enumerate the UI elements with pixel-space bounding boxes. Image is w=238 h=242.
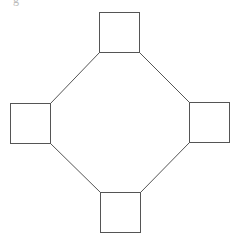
node-bottom: [101, 193, 141, 233]
edge-top-right: [140, 53, 190, 103]
node-left: [11, 104, 51, 144]
edges: [51, 53, 190, 193]
edge-left-bottom: [51, 144, 101, 193]
nodes: [11, 13, 230, 233]
edge-right-bottom: [141, 143, 190, 193]
edge-top-left: [51, 53, 100, 104]
ring-diagram: [0, 0, 238, 242]
node-right: [190, 103, 230, 143]
node-top: [100, 13, 140, 53]
